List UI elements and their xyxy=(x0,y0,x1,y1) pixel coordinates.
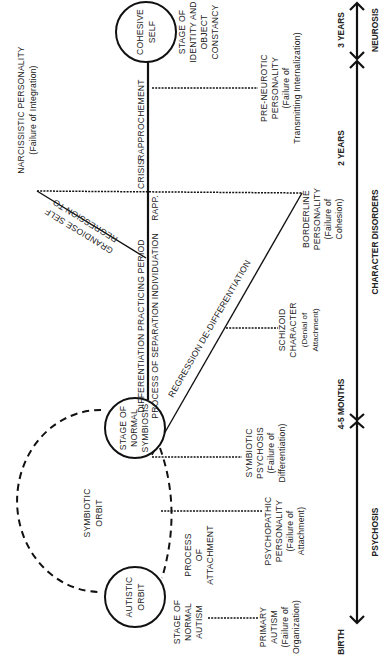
svg-text:PRIMARY: PRIMARY xyxy=(258,607,268,647)
svg-text:(Denial of: (Denial of xyxy=(300,312,309,347)
svg-text:NORMAL: NORMAL xyxy=(129,409,139,447)
svg-text:SYMBIOTIC: SYMBIOTIC xyxy=(82,488,92,537)
svg-text:Attachment): Attachment) xyxy=(296,507,306,556)
svg-text:(Failure of: (Failure of xyxy=(323,198,333,239)
differentiation-practicing-label: DIFFERENTIATION PRACTICING PERIOD xyxy=(136,239,146,413)
svg-text:ORBIT: ORBIT xyxy=(136,583,146,611)
primary-autism-label: PRIMARY AUTISM (Failure of Organization) xyxy=(258,600,301,654)
svg-text:PSYCHOPATHIC: PSYCHOPATHIC xyxy=(263,497,273,566)
svg-text:STAGE OF: STAGE OF xyxy=(172,600,182,644)
svg-text:(Failure of: (Failure of xyxy=(280,606,290,647)
age-3-years: 3 YEARS xyxy=(336,12,346,48)
cohesive-self-node xyxy=(116,2,176,62)
timeline-axis xyxy=(350,3,364,623)
svg-text:PERSONALITY: PERSONALITY xyxy=(312,188,322,250)
narcissistic-personality-label: NARCISSISTIC PERSONALITY (Failure of Int… xyxy=(16,46,38,174)
svg-text:SYMBIOTIC: SYMBIOTIC xyxy=(244,428,254,477)
process-attachment-label: PROCESS OF ATTACHMENT xyxy=(183,525,215,585)
svg-text:AUTISM: AUTISM xyxy=(194,605,204,639)
svg-text:Differentiation): Differentiation) xyxy=(277,424,287,483)
age-4-5-months: 4-5 MONTHS xyxy=(336,378,346,429)
svg-text:(Failure of: (Failure of xyxy=(281,67,291,108)
category-character-disorders: CHARACTER DISORDERS xyxy=(370,189,379,295)
svg-text:NARCISSISTIC PERSONALITY: NARCISSISTIC PERSONALITY xyxy=(16,46,26,174)
svg-text:CHARACTER: CHARACTER xyxy=(288,302,298,357)
crisis-label: CRISIS xyxy=(136,159,146,189)
svg-text:(Failure of Integration): (Failure of Integration) xyxy=(28,65,38,154)
svg-text:(Failure of: (Failure of xyxy=(266,432,276,473)
normal-autism-label: STAGE OF NORMAL AUTISM xyxy=(172,600,204,644)
svg-text:PROCESS: PROCESS xyxy=(183,533,193,576)
svg-text:COHESIVE: COHESIVE xyxy=(135,9,145,55)
svg-text:STAGE OF: STAGE OF xyxy=(118,406,128,450)
regression-grandiose-label: GRANDIOSE SELF REGRESSION TO xyxy=(43,196,121,256)
connector-narcissistic-borderline xyxy=(37,191,302,193)
category-psychosis: PSYCHOSIS xyxy=(370,507,379,556)
svg-text:Cohesion): Cohesion) xyxy=(334,199,344,240)
svg-text:PRE-NEUROTIC: PRE-NEUROTIC xyxy=(259,54,269,122)
svg-text:Attachment): Attachment) xyxy=(311,308,320,351)
symbiotic-psychosis-label: SYMBIOTIC PSYCHOSIS (Failure of Differen… xyxy=(244,424,287,483)
svg-text:SCHIZOID: SCHIZOID xyxy=(277,309,287,352)
rapp-label: RAPP. xyxy=(150,195,160,221)
svg-text:BORDERLINE: BORDERLINE xyxy=(301,190,311,248)
symbiotic-orbit-label: SYMBIOTIC ORBIT xyxy=(82,488,104,537)
svg-text:IDENTITY AND: IDENTITY AND xyxy=(188,1,198,62)
age-2-years: 2 YEARS xyxy=(336,130,346,166)
svg-text:Transmitting Internalization): Transmitting Internalization) xyxy=(292,32,302,144)
svg-text:ORBIT: ORBIT xyxy=(94,499,104,527)
autistic-orbit-node xyxy=(105,567,165,627)
rapprochement-label: RAPPROCHEMENT xyxy=(136,79,146,161)
svg-text:ATTACHMENT: ATTACHMENT xyxy=(205,525,215,585)
svg-text:PERSONALITY: PERSONALITY xyxy=(274,500,284,562)
category-neurosis: NEUROSIS xyxy=(370,8,379,52)
svg-text:CONSTANCY: CONSTANCY xyxy=(210,4,220,59)
attachment-orbit-arc xyxy=(160,448,172,578)
svg-text:NORMAL: NORMAL xyxy=(183,603,193,641)
svg-text:PERSONALITY: PERSONALITY xyxy=(270,57,280,119)
svg-text:SELF: SELF xyxy=(147,21,157,43)
pre-neurotic-personality-label: PRE-NEUROTIC PERSONALITY (Failure of Tra… xyxy=(259,32,302,144)
svg-text:STAGE OF: STAGE OF xyxy=(177,10,187,54)
svg-text:OBJECT: OBJECT xyxy=(199,14,209,50)
developmental-diagram: COHESIVE SELF STAGE OF NORMAL SYMBIOSIS … xyxy=(0,0,379,660)
svg-text:(Failure of: (Failure of xyxy=(285,510,295,551)
borderline-personality-label: BORDERLINE PERSONALITY (Failure of Cohes… xyxy=(301,188,344,250)
psychopathic-personality-label: PSYCHOPATHIC PERSONALITY (Failure of Att… xyxy=(263,497,306,566)
svg-text:Organization): Organization) xyxy=(291,600,301,654)
identity-constancy-label: STAGE OF IDENTITY AND OBJECT CONSTANCY xyxy=(177,1,220,62)
age-birth: BIRTH xyxy=(336,629,346,655)
svg-text:AUTISM: AUTISM xyxy=(269,610,279,644)
process-separation-label: PROCESS OF SEPARATION INDIVIDUATION xyxy=(150,233,160,419)
svg-text:AUTISTIC: AUTISTIC xyxy=(124,577,134,618)
schizoid-character-label: SCHIZOID CHARACTER (Denial of Attachment… xyxy=(277,302,320,357)
svg-text:PSYCHOSIS: PSYCHOSIS xyxy=(255,427,265,479)
svg-text:OF: OF xyxy=(194,549,204,561)
